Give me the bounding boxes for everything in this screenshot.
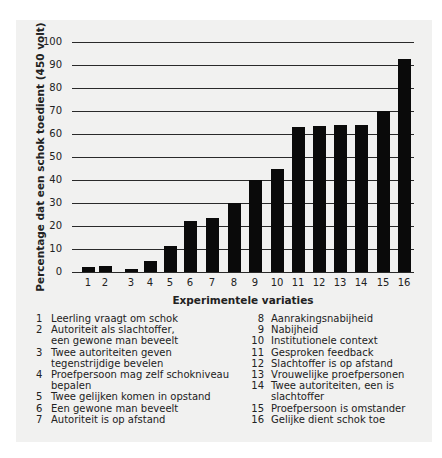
legend-number: 3	[36, 347, 51, 369]
legend-item: 13Vrouwelijke proefpersonen	[244, 369, 434, 380]
legend-number: 5	[36, 391, 51, 402]
legend-right-column: 8Aanrakingsnabijheid9Nabijheid10Institut…	[244, 313, 434, 425]
legend-item: 1Leerling vraagt om schok	[36, 313, 246, 324]
legend-item: 14Twee autoriteiten, een is slachtoffer	[244, 380, 434, 402]
legend-number: 2	[36, 324, 51, 346]
bar-15	[377, 111, 390, 272]
x-tick-label: 6	[180, 277, 200, 288]
legend-number: 15	[244, 403, 264, 414]
bar-9	[249, 180, 262, 272]
x-tick-label: 11	[288, 277, 308, 288]
bar-13	[334, 125, 347, 272]
y-tick-label: 70	[30, 106, 62, 116]
legend-item: 12Slachtoffer is op afstand	[244, 358, 434, 369]
legend-item: 16Gelijke dient schok toe	[244, 414, 434, 425]
legend-number: 12	[244, 358, 264, 369]
y-tick-label: 100	[30, 37, 62, 47]
legend-label: Autoriteit is op afstand	[51, 414, 246, 425]
x-axis-label: Experimentele variaties	[72, 294, 414, 306]
legend-label: Leerling vraagt om schok	[51, 313, 246, 324]
x-tick-label: 12	[309, 277, 329, 288]
legend-label: Autoriteit als slachtoffer,een gewone ma…	[51, 324, 246, 346]
legend-item: 3Twee autoriteiten geventegenstrijdige b…	[36, 347, 246, 369]
y-tick-label: 20	[30, 221, 62, 231]
legend-number: 14	[244, 380, 264, 402]
x-axis-baseline	[72, 272, 414, 273]
legend-label: Vrouwelijke proefpersonen	[271, 369, 434, 380]
bar-8	[228, 203, 241, 272]
bar-chart: Percentage dat een schok toedient (450 v…	[0, 0, 442, 300]
legend-label: Twee autoriteiten, een is slachtoffer	[271, 380, 434, 402]
legend-item: 7Autoriteit is op afstand	[36, 414, 246, 425]
legend-label: Proefpersoon is omstander	[271, 403, 434, 414]
legend-label: Proefpersoon mag zelf schokniveaubepalen	[51, 369, 246, 391]
legend-item: 10Institutionele context	[244, 335, 434, 346]
bar-1	[82, 267, 95, 272]
y-tick-label: 40	[30, 175, 62, 185]
bar-10	[271, 169, 284, 273]
bar-12	[313, 126, 326, 272]
legend-number: 1	[36, 313, 51, 324]
bar-14	[355, 125, 368, 272]
legend-number: 8	[244, 313, 264, 324]
gridline	[72, 65, 414, 66]
gridline	[72, 88, 414, 89]
x-tick-label: 4	[140, 277, 160, 288]
y-tick-label: 50	[30, 152, 62, 162]
legend-label: Gelijke dient schok toe	[271, 414, 434, 425]
legend-number: 11	[244, 347, 264, 358]
y-tick-label: 80	[30, 83, 62, 93]
legend-item: 11Gesproken feedback	[244, 347, 434, 358]
x-tick-label: 8	[224, 277, 244, 288]
y-tick-label: 60	[30, 129, 62, 139]
legend-number: 13	[244, 369, 264, 380]
bar-7	[206, 218, 219, 272]
y-tick-label: 0	[30, 267, 62, 277]
x-tick-label: 2	[95, 277, 115, 288]
legend-label: Twee autoriteiten geventegenstrijdige be…	[51, 347, 246, 369]
gridline	[72, 42, 414, 43]
legend-item: 4Proefpersoon mag zelf schokniveaubepale…	[36, 369, 246, 391]
legend-number: 7	[36, 414, 51, 425]
legend-label: Gesproken feedback	[271, 347, 434, 358]
legend-label: Slachtoffer is op afstand	[271, 358, 434, 369]
y-tick-label: 10	[30, 244, 62, 254]
legend-item: 2Autoriteit als slachtoffer,een gewone m…	[36, 324, 246, 346]
legend-left-column: 1Leerling vraagt om schok2Autoriteit als…	[36, 313, 246, 425]
legend-label: Nabijheid	[271, 324, 434, 335]
legend-item: 5Twee gelijken komen in opstand	[36, 391, 246, 402]
bar-5	[164, 246, 177, 272]
y-tick-label: 90	[30, 60, 62, 70]
legend-label: Een gewone man beveelt	[51, 403, 246, 414]
bar-11	[292, 127, 305, 272]
bar-4	[144, 261, 157, 273]
x-tick-label: 3	[121, 277, 141, 288]
x-tick-label: 10	[267, 277, 287, 288]
legend-number: 10	[244, 335, 264, 346]
x-tick-label: 9	[245, 277, 265, 288]
legend-item: 9Nabijheid	[244, 324, 434, 335]
legend-number: 16	[244, 414, 264, 425]
bar-6	[184, 221, 197, 272]
legend-label: Aanrakingsnabijheid	[271, 313, 434, 324]
x-tick-label: 13	[330, 277, 350, 288]
x-tick-label: 15	[373, 277, 393, 288]
legend-label: Twee gelijken komen in opstand	[51, 391, 246, 402]
gridline	[72, 111, 414, 112]
legend-item: 6Een gewone man beveelt	[36, 403, 246, 414]
x-tick-label: 14	[351, 277, 371, 288]
legend-number: 6	[36, 403, 51, 414]
x-tick-label: 7	[202, 277, 222, 288]
x-tick-label: 16	[394, 277, 414, 288]
legend-number: 4	[36, 369, 51, 391]
legend-item: 15Proefpersoon is omstander	[244, 403, 434, 414]
bar-2	[99, 266, 112, 272]
legend-label: Institutionele context	[271, 335, 434, 346]
y-tick-label: 30	[30, 198, 62, 208]
legend-item: 8Aanrakingsnabijheid	[244, 313, 434, 324]
bar-16	[398, 59, 411, 272]
legend-number: 9	[244, 324, 264, 335]
x-tick-label: 5	[160, 277, 180, 288]
bar-3	[125, 269, 138, 272]
